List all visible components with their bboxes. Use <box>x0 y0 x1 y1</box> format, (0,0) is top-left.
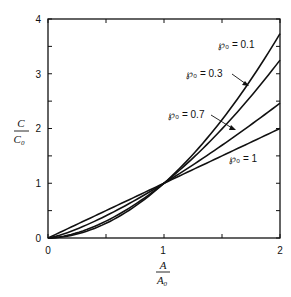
label-p0-0.1: ℘₀ = 0.1 <box>218 39 255 51</box>
x-tick-2: 2 <box>277 245 283 256</box>
y-tick-0: 0 <box>35 233 41 244</box>
label-p0-1: ℘₀ = 1 <box>229 153 258 165</box>
arrow-head-p0-0.7 <box>229 125 236 130</box>
y-tick-1: 1 <box>35 178 41 189</box>
y-axis-label: C C0 <box>14 117 29 147</box>
label-p0-0.3: ℘₀ = 0.3 <box>186 68 223 80</box>
y-label-numerator: C <box>17 117 25 129</box>
curves <box>48 34 280 238</box>
curve-p00.7 <box>48 103 280 238</box>
x-tick-1: 1 <box>160 245 166 256</box>
chart: 0 1 2 3 4 0 1 2 C C0 A A0 ℘₀ = 0.1 ℘₀ = … <box>0 0 291 297</box>
y-label-denominator: C0 <box>14 133 25 147</box>
x-axis-label: A A0 <box>156 259 170 288</box>
curve-p01 <box>48 129 280 239</box>
x-tick-0: 0 <box>45 245 51 256</box>
y-tick-3: 3 <box>35 69 41 80</box>
y-tick-2: 2 <box>35 123 41 134</box>
y-tick-4: 4 <box>35 14 41 25</box>
label-p0-0.7: ℘₀ = 0.7 <box>168 109 205 121</box>
x-label-numerator: A <box>159 259 167 271</box>
x-label-denominator: A0 <box>156 274 168 288</box>
curve-p00.1 <box>48 34 280 238</box>
